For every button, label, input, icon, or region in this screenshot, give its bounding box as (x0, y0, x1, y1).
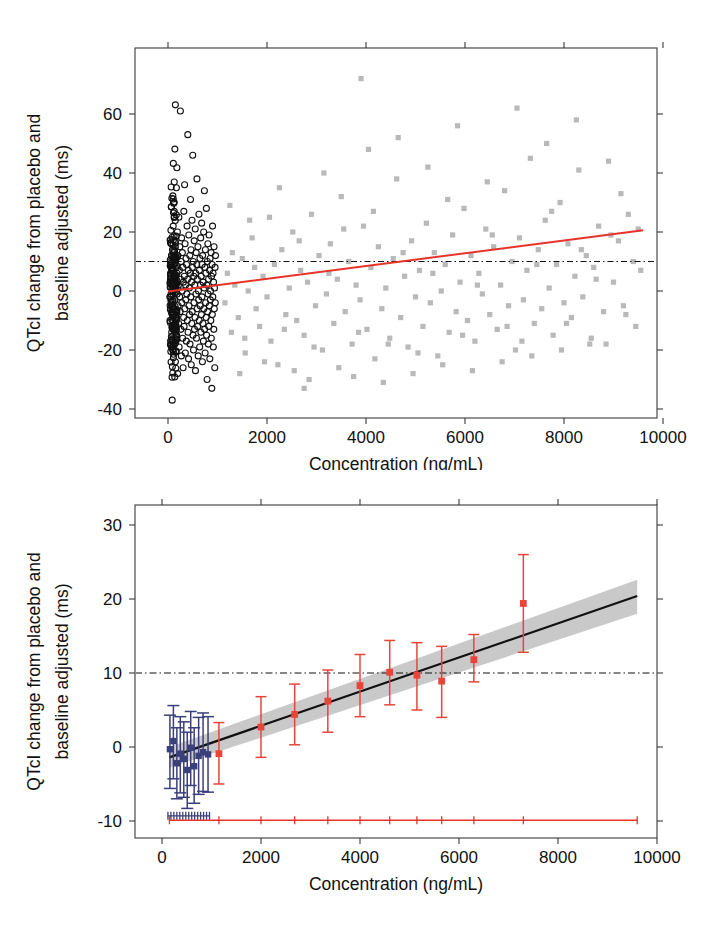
scatter-point-drug (383, 285, 388, 290)
scatter-point-drug (544, 141, 549, 146)
scatter-point-drug (287, 285, 292, 290)
decile-point (216, 750, 223, 757)
scatter-point-placebo (188, 362, 194, 368)
scatter-point-drug (428, 300, 433, 305)
scatter-point-placebo (210, 223, 216, 229)
scatter-point-drug (589, 336, 594, 341)
scatter-point-drug (457, 280, 462, 285)
scatter-point-placebo (182, 182, 188, 188)
scatter-point-drug (506, 303, 511, 308)
scatter-point-drug (252, 265, 257, 270)
scatter-point-placebo (212, 300, 218, 306)
scatter-point-drug (476, 271, 481, 276)
decile-point (205, 751, 211, 757)
scatter-point-drug (626, 212, 631, 217)
scatter-point-drug (472, 339, 477, 344)
y-tick-label: 0 (113, 282, 122, 301)
bottom-decile-panel: 0200040006000800010000-100102030Concentr… (0, 470, 715, 920)
scatter-point-drug (394, 176, 399, 181)
scatter-point-drug (413, 294, 418, 299)
scatter-point-placebo (179, 250, 185, 256)
confidence-band (169, 580, 637, 768)
scatter-point-drug (277, 185, 282, 190)
scatter-point-drug (237, 371, 242, 376)
decile-point (258, 724, 265, 731)
scatter-point-drug (576, 167, 581, 172)
scatter-point-drug (539, 306, 544, 311)
scatter-point-drug (490, 232, 495, 237)
y-tick-label: 40 (103, 164, 122, 183)
scatter-point-placebo (213, 253, 219, 259)
scatter-point-drug (402, 274, 407, 279)
scatter-point-drug (495, 327, 500, 332)
scatter-point-drug (366, 147, 371, 152)
model-fit-line (169, 596, 637, 757)
scatter-point-placebo (192, 315, 198, 321)
scatter-point-placebo (209, 385, 215, 391)
scatter-point-placebo (195, 353, 201, 359)
scatter-point-drug (294, 318, 299, 323)
scatter-point-placebo (196, 211, 202, 217)
scatter-point-drug (487, 312, 492, 317)
scatter-point-drug (387, 336, 392, 341)
scatter-point-drug (275, 362, 280, 367)
scatter-point-placebo (184, 223, 190, 229)
scatter-point-drug (405, 344, 410, 349)
scatter-point-drug (417, 268, 422, 273)
scatter-point-drug (532, 321, 537, 326)
scatter-point-drug (240, 256, 245, 261)
scatter-point-drug (543, 218, 548, 223)
scatter-point-drug (521, 297, 526, 302)
scatter-point-placebo (207, 356, 213, 362)
scatter-point-drug (401, 250, 406, 255)
scatter-point-drug (447, 330, 452, 335)
scatter-point-drug (372, 356, 377, 361)
scatter-point-drug (302, 386, 307, 391)
decile-point (414, 672, 421, 679)
x-tick-label: 4000 (347, 428, 385, 447)
scatter-point-drug (356, 330, 361, 335)
scatter-point-drug (559, 347, 564, 352)
scatter-point-placebo (205, 241, 211, 247)
x-tick-label: 2000 (248, 428, 286, 447)
scatter-point-drug (445, 197, 450, 202)
scatter-point-placebo (195, 244, 201, 250)
scatter-point-drug (513, 347, 518, 352)
scatter-point-drug (524, 268, 529, 273)
scatter-point-drug (290, 229, 295, 234)
scatter-point-drug (594, 277, 599, 282)
scatter-point-drug (564, 321, 569, 326)
scatter-point-drug (534, 262, 539, 267)
y-tick-label: -40 (97, 400, 122, 419)
scatter-point-drug (584, 253, 589, 258)
scatter-point-drug (298, 268, 303, 273)
scatter-point-drug (455, 123, 460, 128)
x-tick-label: 2000 (242, 848, 280, 867)
scatter-point-drug (243, 350, 248, 355)
figure-container: 0200040006000800010000-40-200204060Conce… (0, 0, 715, 933)
decile-point (191, 763, 197, 769)
scatter-point-drug (398, 315, 403, 320)
scatter-point-drug (480, 291, 485, 296)
decile-point (184, 767, 190, 773)
scatter-point-drug (264, 294, 269, 299)
scatter-point-placebo (211, 306, 217, 312)
scatter-point-drug (364, 327, 369, 332)
scatter-point-drug (292, 368, 297, 373)
scatter-point-drug (331, 321, 336, 326)
scatter-point-drug (638, 268, 643, 273)
scatter-point-drug (229, 330, 234, 335)
scatter-point-placebo (182, 306, 188, 312)
scatter-point-drug (354, 283, 359, 288)
scatter-point-placebo (190, 347, 196, 353)
scatter-point-drug (547, 285, 552, 290)
x-tick-label: 6000 (446, 428, 484, 447)
scatter-point-placebo (206, 232, 212, 238)
scatter-point-placebo (190, 152, 196, 158)
scatter-point-placebo (182, 241, 188, 247)
scatter-point-drug (569, 315, 574, 320)
scatter-point-drug (311, 344, 316, 349)
scatter-point-drug (554, 262, 559, 267)
scatter-point-drug (386, 342, 391, 347)
decile-point (167, 746, 173, 752)
